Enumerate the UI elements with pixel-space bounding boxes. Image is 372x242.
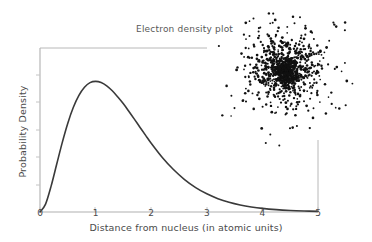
x-tick-label-0: 0 xyxy=(31,208,49,218)
x-tick-label-1: 1 xyxy=(87,208,105,218)
x-tick-label-5: 5 xyxy=(309,208,327,218)
electron-density-figure: Electron density plot Distance from nucl… xyxy=(0,0,372,242)
y-axis-ticks xyxy=(36,75,40,185)
x-tick-label-2: 2 xyxy=(142,208,160,218)
chart-title: Electron density plot xyxy=(136,24,233,34)
x-axis-label: Distance from nucleus (in atomic units) xyxy=(0,222,372,233)
y-axis-label: Probability Density xyxy=(17,77,28,187)
probability-density-curve xyxy=(40,81,318,212)
x-tick-label-3: 3 xyxy=(198,208,216,218)
plot-canvas xyxy=(0,0,372,242)
electron-density-cloud xyxy=(218,12,354,146)
x-tick-label-4: 4 xyxy=(253,208,271,218)
